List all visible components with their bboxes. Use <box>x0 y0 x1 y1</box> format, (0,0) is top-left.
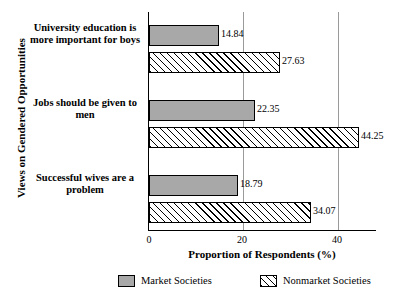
bar-value-nonmarket-1: 44.25 <box>361 130 384 141</box>
plot-area <box>148 12 376 231</box>
legend-label: Market Societies <box>141 275 212 287</box>
legend-item-nonmarket: Nonmarket Societies <box>260 272 371 290</box>
bar-value-nonmarket-2: 34.07 <box>313 205 336 216</box>
gridline-20 <box>243 12 244 230</box>
bar-chart: Views on Gendered Opportunities Universi… <box>0 0 411 299</box>
bar-market-1 <box>149 100 255 121</box>
bar-value-nonmarket-0: 27.63 <box>282 55 305 66</box>
bar-market-2 <box>149 175 238 196</box>
legend-item-market: Market Societies <box>118 272 212 290</box>
legend-label: Nonmarket Societies <box>283 275 371 287</box>
x-axis-title: Proportion of Respondents (%) <box>148 248 376 261</box>
bar-market-0 <box>149 25 219 46</box>
bar-value-market-1: 22.35 <box>257 103 280 114</box>
bar-value-market-0: 14.84 <box>221 28 244 39</box>
x-tick-label-40: 40 <box>327 234 347 245</box>
bar-nonmarket-2 <box>149 202 311 223</box>
x-tick-label-0: 0 <box>139 234 159 245</box>
bar-nonmarket-1 <box>149 127 359 148</box>
legend-swatch-icon <box>260 275 277 287</box>
category-label: Jobs should be given to men <box>26 97 144 121</box>
legend: Market Societies Nonmarket Societies <box>118 272 398 292</box>
category-label: University education is more important f… <box>26 22 144 46</box>
category-label: Successful wives are a problem <box>26 172 144 196</box>
bar-value-market-2: 18.79 <box>240 178 263 189</box>
legend-swatch-icon <box>118 275 135 287</box>
x-tick-label-20: 20 <box>232 234 252 245</box>
gridline-40 <box>338 12 339 230</box>
bar-nonmarket-0 <box>149 52 280 73</box>
